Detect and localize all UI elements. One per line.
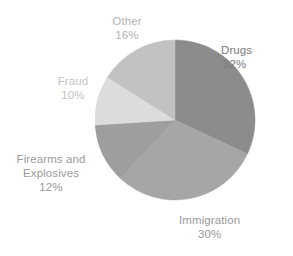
slice-label-immigration-name: Immigration <box>179 213 240 227</box>
slice-label-fraud-name: Fraud <box>44 74 102 88</box>
slice-label-other-name: Other <box>96 14 158 28</box>
slice-label-firearms-and-explosives: Firearms and Explosives 12% <box>8 152 94 194</box>
slice-label-firearms-name-line1: Firearms and <box>8 152 94 166</box>
slice-label-firearms-name-line2: Explosives <box>8 166 94 180</box>
slice-label-other-value: 16% <box>96 28 158 42</box>
slice-label-immigration: Immigration 30% <box>179 213 240 241</box>
slice-label-drugs: Drugs 32% <box>221 43 252 71</box>
slice-label-firearms-value: 12% <box>8 180 94 194</box>
slice-label-other: Other 16% <box>96 14 158 42</box>
slice-label-immigration-value: 30% <box>179 227 240 241</box>
slice-label-fraud-value: 10% <box>44 88 102 102</box>
pie-chart: Drugs 32% Immigration 30% Firearms and E… <box>0 0 293 256</box>
slice-label-fraud: Fraud 10% <box>44 74 102 102</box>
slice-label-drugs-name: Drugs <box>221 43 252 57</box>
slice-label-drugs-value: 32% <box>221 57 252 71</box>
